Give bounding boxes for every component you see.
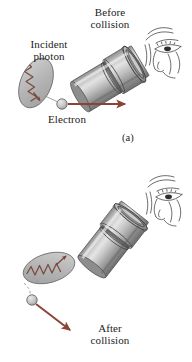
panel-b-heading-line2: collision xyxy=(91,334,130,346)
incident-photon-label: Incident photon xyxy=(12,38,86,63)
electron-label: Electron xyxy=(26,113,108,125)
panel-a-heading-line1: Before xyxy=(95,6,126,18)
panel-a: Before collision Incident photon Electro… xyxy=(0,0,192,155)
panel-a-caption: (a) xyxy=(108,132,148,144)
panel-b: After collision Scattered photon Recoili… xyxy=(0,158,192,362)
panel-a-heading-line2: collision xyxy=(91,18,130,30)
panel-b-heading: After collision xyxy=(74,322,146,347)
panel-b-heading-line1: After xyxy=(98,322,122,334)
incident-photon-label-line2: photon xyxy=(33,50,64,62)
compton-scattering-figure: Before collision Incident photon Electro… xyxy=(0,0,192,362)
incident-photon-label-line1: Incident xyxy=(31,38,68,50)
panel-a-heading: Before collision xyxy=(74,6,146,31)
